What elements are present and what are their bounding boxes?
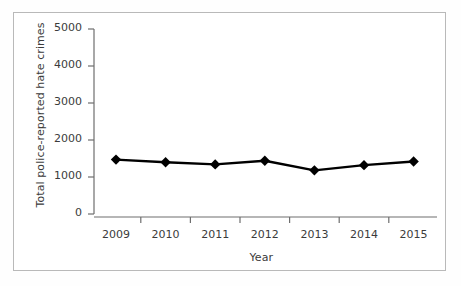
y-axis-tick-label: 2000 [38,132,82,145]
x-axis-tick-label: 2011 [193,228,237,241]
x-axis-tick-label: 2014 [342,228,386,241]
y-axis-tick-label: 4000 [38,58,82,71]
y-axis-tick-label: 1000 [38,169,82,182]
x-axis-title: Year [250,251,274,264]
data-point-marker [160,157,170,167]
data-point-marker [309,165,319,175]
y-axis-tick-label: 3000 [38,95,82,108]
y-axis-tick-label: 0 [38,206,82,219]
chart-figure: Total police-reported hate crimes Year 0… [0,0,461,286]
data-point-marker [408,156,418,166]
x-axis-tick-label: 2009 [94,228,138,241]
data-point-marker [260,156,270,166]
data-point-marker [359,160,369,170]
x-axis-tick-label: 2015 [392,228,436,241]
data-point-marker [111,154,121,164]
x-axis-tick-label: 2012 [243,228,287,241]
x-axis-tick-label: 2013 [292,228,336,241]
y-axis-tick-label: 5000 [38,21,82,34]
x-axis-tick-label: 2010 [144,228,188,241]
data-point-marker [210,159,220,169]
